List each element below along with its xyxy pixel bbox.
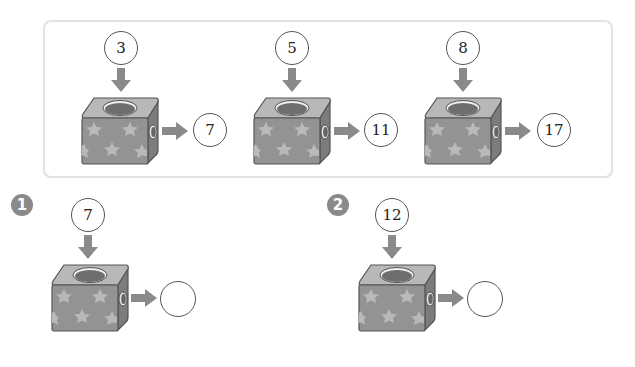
right-arrow-icon [162, 122, 188, 140]
example-1-input: 3 [104, 31, 138, 65]
question-2-input: 12 [375, 198, 409, 232]
down-arrow-icon [282, 68, 302, 92]
question-1-input: 7 [71, 198, 105, 232]
machine-box-icon [252, 96, 332, 166]
machine-box-icon [50, 263, 130, 333]
machine-box-icon [423, 96, 503, 166]
example-2-output: 11 [364, 113, 398, 147]
down-arrow-icon [78, 235, 98, 259]
right-arrow-icon [505, 122, 531, 140]
question-1-number-badge: 1 [11, 194, 33, 216]
question-1-answer-field[interactable] [160, 281, 196, 317]
example-3-output: 17 [537, 113, 571, 147]
example-3-input: 8 [446, 31, 480, 65]
right-arrow-icon [438, 289, 464, 307]
down-arrow-icon [453, 68, 473, 92]
example-2-input: 5 [275, 31, 309, 65]
question-2-answer-field[interactable] [467, 281, 503, 317]
example-1-output: 7 [193, 113, 227, 147]
right-arrow-icon [334, 122, 360, 140]
question-2-number-badge: 2 [327, 194, 349, 216]
down-arrow-icon [111, 68, 131, 92]
right-arrow-icon [131, 289, 157, 307]
machine-box-icon [357, 263, 437, 333]
machine-box-icon [80, 96, 160, 166]
down-arrow-icon [382, 235, 402, 259]
